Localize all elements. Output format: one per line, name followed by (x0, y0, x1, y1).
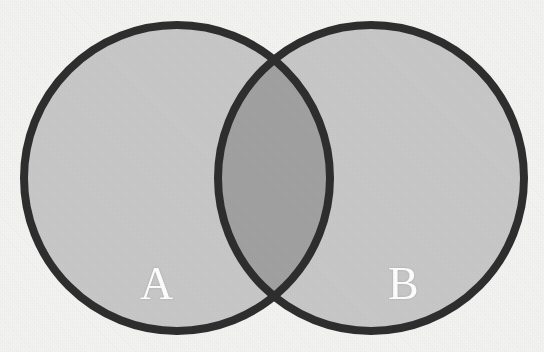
set-b-label: B (388, 261, 419, 307)
venn-diagram-figure: A B (0, 0, 544, 352)
set-a-label: A (140, 261, 173, 307)
venn-diagram-canvas (0, 0, 544, 352)
